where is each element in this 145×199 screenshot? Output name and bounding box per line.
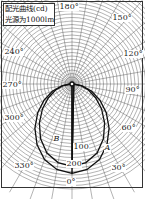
angle-label-120: 120° [123,50,143,58]
angle-label-270: 270° [2,81,22,89]
radial-label-200: 200 [66,160,82,168]
radial-label-100: 100 [73,143,89,151]
angle-label-60: 60° [121,124,136,132]
curve-label-a: A [104,144,111,152]
legend-box: 配光曲线(cd) 光源为1000lm [3,3,55,26]
curve-label-b: B [53,135,60,143]
angle-label-180: 180° [59,3,79,11]
angle-label-0: 0° [66,178,76,186]
chart-subtitle: 光源为1000lm [5,15,53,26]
angle-label-300: 300° [4,114,24,122]
angle-label-90: 90° [125,86,140,94]
angle-label-240: 240° [4,48,24,56]
angle-label-30: 30° [111,164,126,172]
chart-title: 配光曲线(cd) [5,4,53,15]
angle-label-330: 330° [14,162,34,170]
angle-label-150: 150° [112,14,132,22]
